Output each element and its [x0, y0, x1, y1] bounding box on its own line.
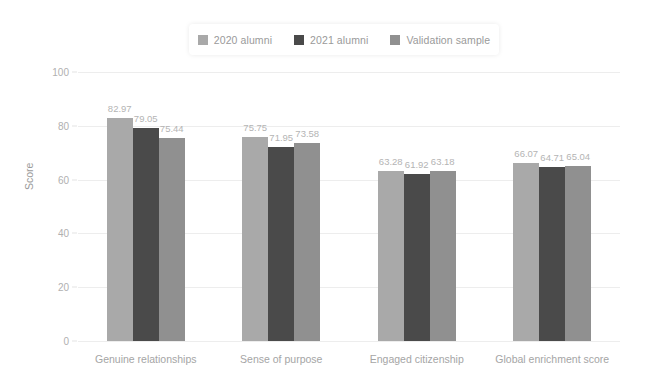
bar-value-label: 65.04: [566, 151, 590, 162]
bar-group: 75.7571.9573.58Sense of purpose: [214, 72, 350, 341]
bar-value-label: 75.44: [160, 123, 184, 134]
bar-group: 63.2861.9263.18Engaged citizenship: [349, 72, 485, 341]
bar-value-label: 79.05: [134, 113, 158, 124]
bar[interactable]: [513, 163, 539, 341]
bar-value-label: 63.18: [431, 156, 455, 167]
bar-value-label: 75.75: [243, 122, 267, 133]
bar[interactable]: [565, 166, 591, 341]
bar-slot: 63.18: [430, 171, 456, 341]
x-axis-category-label: Global enrichment score: [495, 353, 609, 365]
bar-group-bars: 66.0764.7165.04: [513, 72, 591, 341]
y-axis-tick-label: 0: [63, 336, 69, 347]
bar-chart: Score 020406080100 82.9779.0575.44Genuin…: [0, 0, 646, 383]
y-axis-title: Score: [23, 174, 35, 190]
bar-slot: 75.75: [242, 137, 268, 341]
bar-slot: 65.04: [565, 166, 591, 341]
x-axis-category-label: Engaged citizenship: [370, 353, 464, 365]
bar[interactable]: [107, 118, 133, 341]
bar-slot: 66.07: [513, 163, 539, 341]
bar-group-bars: 82.9779.0575.44: [107, 72, 185, 341]
bar[interactable]: [294, 143, 320, 341]
y-axis-tick: [72, 72, 77, 73]
bar-group: 66.0764.7165.04Global enrichment score: [485, 72, 621, 341]
bar-slot: 73.58: [294, 143, 320, 341]
y-axis-tick-label: 60: [58, 174, 69, 185]
bar-value-label: 82.97: [108, 103, 132, 114]
bar-group-bars: 63.2861.9263.18: [378, 72, 456, 341]
y-axis-tick-label: 20: [58, 282, 69, 293]
bar-slot: 61.92: [404, 174, 430, 341]
y-axis-tick: [72, 341, 77, 342]
bar[interactable]: [378, 171, 404, 341]
x-axis-category-label: Sense of purpose: [240, 353, 322, 365]
bar-slot: 71.95: [268, 147, 294, 341]
gridline: [78, 341, 620, 342]
bar-group-bars: 75.7571.9573.58: [242, 72, 320, 341]
bar[interactable]: [133, 128, 159, 341]
y-axis-tick: [72, 179, 77, 180]
bar[interactable]: [430, 171, 456, 341]
y-axis-tick-label: 40: [58, 228, 69, 239]
bar-slot: 63.28: [378, 171, 404, 341]
y-axis-tick: [72, 233, 77, 234]
y-axis-tick-label: 100: [52, 67, 69, 78]
bar-value-label: 63.28: [379, 156, 403, 167]
bar[interactable]: [539, 167, 565, 341]
x-axis-category-label: Genuine relationships: [95, 353, 197, 365]
bar-slot: 82.97: [107, 118, 133, 341]
bar-value-label: 64.71: [540, 152, 564, 163]
bar[interactable]: [268, 147, 294, 341]
bar[interactable]: [242, 137, 268, 341]
bar-value-label: 66.07: [514, 148, 538, 159]
bar-slot: 64.71: [539, 167, 565, 341]
y-axis-tick-label: 80: [58, 120, 69, 131]
bar-slot: 75.44: [159, 138, 185, 341]
y-axis-tick: [72, 125, 77, 126]
bar-value-label: 71.95: [269, 132, 293, 143]
bar[interactable]: [159, 138, 185, 341]
bar-slot: 79.05: [133, 128, 159, 341]
bar-group: 82.9779.0575.44Genuine relationships: [78, 72, 214, 341]
plot-area: 020406080100 82.9779.0575.44Genuine rela…: [78, 72, 620, 341]
bar[interactable]: [404, 174, 430, 341]
y-axis-tick: [72, 287, 77, 288]
bar-value-label: 73.58: [295, 128, 319, 139]
bar-value-label: 61.92: [405, 159, 429, 170]
